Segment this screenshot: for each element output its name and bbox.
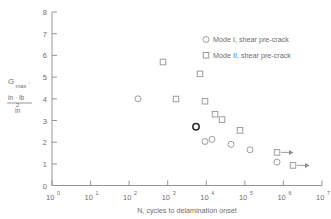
x-axis: 10 0 10 1 10 2 10 3 10 4 bbox=[46, 181, 330, 216]
y-tick-5: 5 bbox=[43, 73, 57, 82]
y-tick-3: 3 bbox=[43, 117, 57, 126]
data-point-square bbox=[237, 128, 243, 134]
x-tick-label-3: 10 bbox=[162, 193, 170, 202]
y-axis-unit-denominator-exponent: 2 bbox=[16, 102, 19, 108]
data-point-square bbox=[290, 163, 296, 169]
data-point-circle bbox=[247, 147, 253, 153]
legend-label-mode-i: Mode I, shear pre-crack bbox=[213, 35, 289, 44]
legend-entry-mode-ii: Mode II, shear pre-crack bbox=[203, 51, 291, 60]
x-tick-label-5: 10 bbox=[239, 193, 247, 202]
runout-arrow-head-icon bbox=[289, 150, 294, 155]
y-tick-label-8: 8 bbox=[43, 8, 47, 17]
legend-square-marker-icon bbox=[203, 53, 209, 59]
x-tick-2: 10 2 bbox=[123, 181, 137, 203]
legend-circle-marker-icon bbox=[203, 37, 209, 43]
chart-canvas: 8 7 6 5 4 3 2 bbox=[0, 0, 331, 219]
x-tick-exponent-4: 4 bbox=[211, 190, 214, 196]
x-tick-3: 10 3 bbox=[162, 181, 176, 203]
y-axis-symbol-subscript: max bbox=[16, 83, 27, 89]
data-point-square bbox=[173, 96, 179, 102]
data-point-circle bbox=[135, 96, 141, 102]
x-tick-label-6: 10 bbox=[277, 193, 285, 202]
data-point-square bbox=[202, 98, 208, 104]
x-tick-exponent-2: 2 bbox=[134, 190, 137, 196]
data-point-circle-emphasized bbox=[193, 124, 199, 130]
y-tick-2: 2 bbox=[43, 138, 57, 147]
x-tick-exponent-1: 1 bbox=[96, 190, 99, 196]
data-point-square bbox=[212, 111, 218, 117]
data-point-square bbox=[197, 71, 203, 77]
y-tick-8: 8 bbox=[43, 8, 57, 17]
x-tick-0: 10 0 bbox=[46, 181, 60, 203]
data-point-circle bbox=[209, 136, 215, 142]
x-tick-6: 10 6 bbox=[277, 181, 291, 203]
y-axis-symbol: G bbox=[8, 77, 14, 86]
x-tick-7: 10 7 bbox=[316, 181, 330, 203]
x-axis-title: N, cycles to delamination onset bbox=[137, 206, 236, 215]
x-tick-exponent-3: 3 bbox=[173, 190, 176, 196]
x-tick-4: 10 4 bbox=[200, 181, 214, 203]
scatter-chart-figure: 8 7 6 5 4 3 2 bbox=[0, 0, 331, 219]
x-tick-5: 10 5 bbox=[239, 181, 253, 203]
x-tick-label-4: 10 bbox=[200, 193, 208, 202]
x-tick-exponent-6: 6 bbox=[288, 190, 291, 196]
y-tick-6: 6 bbox=[43, 51, 57, 60]
y-axis-symbol-comma: , bbox=[29, 78, 31, 84]
x-tick-exponent-5: 5 bbox=[250, 190, 253, 196]
x-tick-exponent-0: 0 bbox=[57, 190, 60, 196]
x-tick-label-2: 10 bbox=[123, 193, 131, 202]
x-tick-1: 10 1 bbox=[85, 181, 99, 203]
data-point-circle bbox=[228, 141, 234, 147]
y-axis-unit-numerator: in · lb bbox=[8, 94, 24, 101]
runout-arrow-head-icon bbox=[305, 163, 310, 168]
y-tick-label-7: 7 bbox=[43, 30, 47, 39]
y-axis: 8 7 6 5 4 3 2 bbox=[43, 8, 57, 191]
legend-entry-mode-i: Mode I, shear pre-crack bbox=[203, 35, 289, 44]
x-tick-exponent-7: 7 bbox=[327, 190, 330, 196]
x-tick-label-1: 10 bbox=[85, 193, 93, 202]
y-tick-1: 1 bbox=[43, 160, 57, 169]
data-point-circle bbox=[274, 159, 280, 165]
data-point-square bbox=[219, 117, 225, 123]
y-tick-label-6: 6 bbox=[43, 51, 47, 60]
y-tick-4: 4 bbox=[43, 95, 57, 104]
data-point-square bbox=[274, 150, 280, 156]
y-tick-7: 7 bbox=[43, 30, 57, 39]
x-tick-label-0: 10 bbox=[46, 193, 54, 202]
legend-label-mode-ii: Mode II, shear pre-crack bbox=[213, 51, 291, 60]
data-point-square-runout bbox=[290, 163, 309, 169]
legend: Mode I, shear pre-crack Mode II, shear p… bbox=[203, 35, 291, 60]
x-tick-label-7: 10 bbox=[316, 193, 324, 202]
y-axis-title: G max , in · lb in 2 bbox=[7, 77, 32, 114]
y-tick-label-0: 0 bbox=[43, 182, 47, 191]
y-axis-unit-denominator: in bbox=[15, 107, 20, 114]
y-tick-label-1: 1 bbox=[43, 160, 47, 169]
series-mode-i-markers bbox=[135, 96, 280, 165]
y-tick-label-5: 5 bbox=[43, 73, 47, 82]
y-tick-0: 0 bbox=[43, 182, 47, 191]
y-tick-label-3: 3 bbox=[43, 117, 47, 126]
y-tick-label-4: 4 bbox=[43, 95, 47, 104]
data-point-square bbox=[160, 59, 166, 65]
series-mode-ii-markers bbox=[160, 59, 309, 168]
y-tick-label-2: 2 bbox=[43, 138, 47, 147]
data-point-circle bbox=[202, 139, 208, 145]
data-point-square-runout bbox=[274, 150, 293, 156]
